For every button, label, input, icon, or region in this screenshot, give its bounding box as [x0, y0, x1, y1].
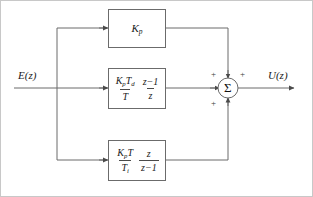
integral-z-fraction: z z−1: [139, 148, 159, 174]
proportional-expression: Kp: [131, 22, 142, 36]
summing-junction-symbol: Σ: [224, 81, 232, 94]
sign-plus-top-left: +: [211, 70, 216, 79]
integral-block-content: KpT Ti z z−1: [108, 140, 166, 181]
derivative-block-content: KpTd T z−1 z: [108, 68, 166, 109]
derivative-gain-fraction: KpTd T: [114, 75, 137, 102]
integral-gain-fraction: KpT Ti: [115, 147, 135, 175]
block-output-lines: [166, 28, 229, 160]
sign-plus-bottom-left: +: [211, 99, 216, 108]
block-diagram: E(z) U(z) Σ + + + Kp KpTd T z−1 z KpT Ti: [0, 0, 313, 197]
derivative-z-fraction: z−1 z: [141, 76, 161, 102]
sign-plus-top-right: +: [240, 70, 245, 79]
output-label: U(z): [268, 70, 288, 81]
input-label: E(z): [18, 70, 36, 81]
block-input-arrows: [99, 28, 108, 160]
input-branch-line: [57, 28, 107, 160]
proportional-block-content: Kp: [108, 9, 166, 48]
